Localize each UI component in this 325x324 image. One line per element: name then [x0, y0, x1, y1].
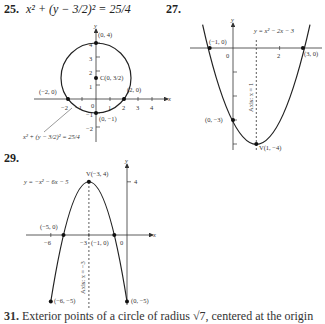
leader-line: [44, 108, 72, 132]
label-center: C(0, 3/2): [100, 74, 123, 82]
point-center: [94, 76, 98, 80]
label-3-0: (3, 0): [304, 50, 318, 58]
label-0-m1: (0, −1): [99, 115, 117, 123]
label-m1-0: (−1, 0): [209, 38, 227, 46]
label-vertex: V(1, −4): [259, 144, 281, 152]
graph-27: y = x² − 2x − 3 (−1, 0) (3, 0) (0, −3) V…: [190, 16, 322, 152]
y-axis-label: y: [124, 157, 128, 164]
point-m5-0: [62, 233, 66, 237]
tick-0: 0: [226, 52, 229, 59]
axis-label: Axis: x = −3: [79, 261, 86, 294]
label-0-m3: (0, −3): [205, 116, 223, 124]
label-m2-0: (−2, 0): [39, 88, 57, 96]
tick-0: 0: [120, 239, 123, 246]
problem-statement: Exterior points of a circle of radius √7…: [22, 309, 313, 323]
point-m1-0: [112, 233, 116, 237]
svg-text:−1: −1: [75, 104, 82, 111]
axis-label: Axis: x = 1: [247, 83, 254, 112]
svg-text:0: 0: [91, 102, 94, 109]
svg-text:4: 4: [89, 41, 93, 48]
point-m1-0: [208, 46, 212, 50]
label-m6-m5: (−6, −5): [54, 297, 75, 305]
equation-label: y = x² − 2x − 3: [253, 27, 295, 34]
point-0-m1: [94, 111, 98, 115]
point-m6-m5: [49, 300, 53, 304]
x-axis-label: x: [152, 231, 156, 238]
graph-29: V(−3, 4) y = −x² − 6x − 5 (−5, 0) (−1, 0…: [23, 157, 156, 308]
problem-number: 31.: [4, 309, 19, 323]
x-axis-label: x: [167, 95, 171, 102]
svg-text:2: 2: [89, 69, 92, 76]
label-m5-0: (−5, 0): [40, 223, 58, 231]
problem-31-text: 31. Exterior points of a circle of radiu…: [4, 309, 313, 324]
point-0-m3: [231, 118, 235, 122]
svg-text:3: 3: [136, 104, 139, 111]
y-axis-label: y: [93, 22, 97, 29]
label-2-0: (2, 0): [127, 86, 141, 94]
svg-text:−1: −1: [86, 111, 93, 118]
label-0-4: (0, 4): [98, 31, 112, 39]
svg-text:4: 4: [150, 104, 154, 111]
svg-text:2: 2: [122, 104, 125, 111]
equation-label: y = −x² − 6x − 5: [23, 178, 69, 185]
point-m2-0: [66, 97, 70, 101]
tick-m3: −3: [80, 239, 87, 246]
tick-y4: 4: [134, 178, 138, 185]
tick-m6: −6: [44, 239, 52, 246]
point-vertex: [87, 180, 91, 184]
label-m1-0: (−1, 0): [91, 239, 109, 247]
point-0-4: [94, 41, 98, 45]
svg-text:−2: −2: [61, 104, 68, 111]
svg-text:1: 1: [89, 83, 92, 90]
point-0-m5: [125, 300, 129, 304]
svg-text:−2: −2: [86, 125, 93, 132]
tick-2: 2: [277, 52, 280, 59]
label-vertex: V(−3, 4): [86, 170, 108, 178]
svg-text:3: 3: [89, 55, 92, 62]
point-2-0: [122, 97, 126, 101]
label-0-m5: (0, −5): [131, 297, 149, 305]
graph-25: (0, 4) C(0, 3/2) (−2, 0) (2, 0) (0, −1) …: [22, 22, 171, 142]
point-vertex: [254, 142, 258, 146]
svg-text:1: 1: [108, 104, 111, 111]
curve-label: x² + (y − 3/2)² = 25/4: [22, 133, 81, 141]
y-axis-label: y: [230, 16, 234, 23]
